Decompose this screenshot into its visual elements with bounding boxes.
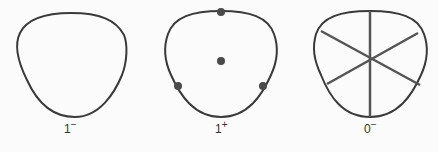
dot-center	[217, 57, 225, 65]
figure-1-label: 1−	[64, 119, 77, 136]
dot-left	[174, 82, 182, 90]
figure-2-label: 1+	[215, 119, 228, 136]
figure-1: 1−	[17, 13, 126, 136]
figure-2: 1+	[165, 8, 277, 136]
figure-3: 0−	[314, 11, 427, 136]
diagram-canvas: 1− 1+ 0−	[0, 0, 438, 152]
dot-right	[259, 82, 267, 90]
figure-3-label: 0−	[364, 119, 377, 136]
rounded-triangle-outline	[17, 13, 126, 117]
dot-top	[217, 8, 225, 16]
